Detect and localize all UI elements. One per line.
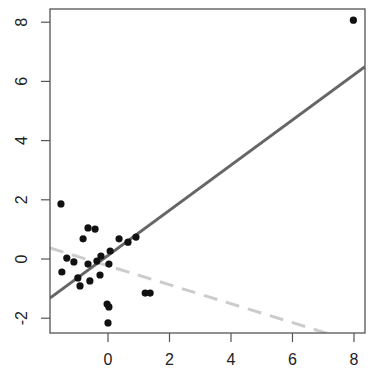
data-point — [105, 303, 112, 310]
data-point — [132, 233, 139, 240]
x-tick-label: 6 — [288, 351, 297, 368]
x-tick-label: 0 — [104, 351, 113, 368]
data-point — [70, 258, 77, 265]
x-axis: 02468 — [104, 333, 359, 368]
data-point — [147, 289, 154, 296]
y-tick-label: 4 — [13, 136, 30, 145]
data-point — [79, 235, 86, 242]
y-tick-label: 0 — [13, 254, 30, 263]
plot-frame — [50, 9, 365, 333]
data-point — [91, 226, 98, 233]
data-points — [57, 17, 357, 327]
data-point — [350, 17, 357, 24]
y-axis: -202468 — [13, 18, 50, 326]
scatter-plot: 02468 -202468 — [0, 0, 377, 382]
data-point — [84, 260, 91, 267]
y-tick-label: 6 — [13, 77, 30, 86]
fit-lines — [50, 67, 365, 345]
data-point — [76, 282, 83, 289]
y-tick-label: 8 — [13, 18, 30, 27]
data-point — [74, 274, 81, 281]
x-tick-label: 8 — [350, 351, 359, 368]
data-point — [63, 255, 70, 262]
data-point — [58, 268, 65, 275]
y-tick-label: -2 — [13, 311, 30, 325]
data-point — [115, 235, 122, 242]
data-point — [107, 247, 114, 254]
data-point — [84, 224, 91, 231]
data-point — [105, 260, 112, 267]
data-point — [104, 319, 111, 326]
data-point — [86, 277, 93, 284]
data-point — [97, 252, 104, 259]
data-point — [57, 200, 64, 207]
data-point — [124, 239, 131, 246]
x-tick-label: 2 — [165, 351, 174, 368]
data-point — [96, 271, 103, 278]
y-tick-label: 2 — [13, 195, 30, 204]
x-tick-label: 4 — [227, 351, 236, 368]
